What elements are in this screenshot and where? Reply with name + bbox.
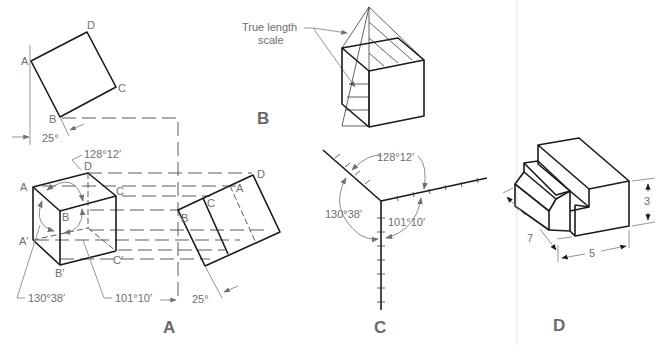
- angle-25-bottom: 25°: [192, 293, 209, 305]
- panel-d: 3 7 5 D: [503, 138, 655, 335]
- label-d: D: [84, 160, 92, 172]
- angle-128-12: 128°12′: [84, 148, 121, 160]
- label-c: C: [207, 197, 215, 209]
- true-length-label-line2: scale: [258, 34, 284, 46]
- true-length-scale-cube: [342, 7, 424, 127]
- caption-c: C: [374, 318, 386, 337]
- dimension-height: 3: [644, 195, 650, 207]
- panel-b: True length scale B: [242, 7, 424, 128]
- label-d: D: [87, 19, 95, 31]
- caption-d: D: [553, 316, 565, 335]
- label-b-prime: B′: [55, 267, 64, 279]
- label-a: A: [21, 55, 29, 67]
- label-c-prime: C′: [113, 254, 123, 266]
- label-a: A: [20, 181, 28, 193]
- panel-a: A D C B 25°: [12, 19, 280, 337]
- label-c: C: [116, 185, 124, 197]
- dimensions: 3 7 5: [503, 178, 655, 262]
- label-a: A: [236, 182, 244, 194]
- isometric-cube: 128°12′ 130°38′ 101°10′ A D C B A′ B′ C′: [17, 148, 152, 304]
- label-b: B: [62, 211, 69, 223]
- caption-a: A: [163, 318, 175, 337]
- label-d: D: [257, 168, 265, 180]
- stepped-block: [515, 138, 629, 236]
- angle-130-38: 130°38′: [28, 292, 65, 304]
- panel-c: 128°12′ 130°38′ 101°10′ C: [323, 150, 487, 337]
- angle-25-top: 25°: [42, 132, 59, 144]
- label-c: C: [118, 82, 126, 94]
- projection-line: [62, 118, 178, 300]
- label-a-prime: A′: [19, 235, 28, 247]
- label-b: B: [181, 212, 188, 224]
- angle-101-10: 101°10′: [388, 216, 425, 228]
- isometric-axes: 128°12′ 130°38′ 101°10′: [323, 150, 487, 310]
- isometric-projection-figure: A D C B 25°: [0, 0, 664, 345]
- auxiliary-view: B C A D 25°: [178, 168, 280, 305]
- angle-128-12: 128°12′: [377, 151, 414, 163]
- true-length-label-line1: True length: [242, 21, 297, 33]
- caption-b: B: [257, 109, 269, 128]
- top-view-square: A D C B 25°: [12, 19, 126, 145]
- label-b: B: [49, 113, 56, 125]
- angle-101-10: 101°10′: [115, 292, 152, 304]
- angle-130-38: 130°38′: [325, 208, 362, 220]
- dimension-width: 5: [589, 247, 595, 259]
- dimension-depth: 7: [527, 232, 533, 244]
